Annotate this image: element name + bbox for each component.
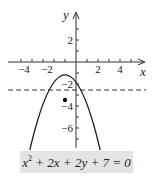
equation-box: x2 + 2x + 2y + 7 = 0 xyxy=(20,151,133,173)
equation-label: x2 + 2x + 2y + 7 = 0 xyxy=(20,154,133,171)
x-axis-label: x xyxy=(139,64,146,79)
focus-point xyxy=(63,98,67,102)
eq-rest: + 2x + 2y + 7 = 0 xyxy=(32,155,131,170)
coordinate-plane: x y −4 −2 2 4 2 −2 −4 −6 xyxy=(0,0,152,150)
x-tick-label: −4 xyxy=(18,63,30,75)
x-tick-label: −2 xyxy=(41,63,53,75)
y-tick-label: −6 xyxy=(61,122,73,134)
x-tick-label: 2 xyxy=(95,63,101,75)
x-tick-label: 4 xyxy=(117,63,123,75)
y-tick-label: −4 xyxy=(61,100,73,112)
y-tick-label: −2 xyxy=(61,78,73,90)
y-axis-label: y xyxy=(61,7,69,22)
y-tick-label: 2 xyxy=(68,34,74,46)
